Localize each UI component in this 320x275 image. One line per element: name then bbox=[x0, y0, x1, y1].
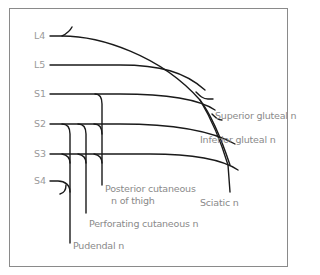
s3-branch-3 bbox=[94, 154, 102, 163]
label-posterior-cutaneous-1: Posterior cutaneous bbox=[105, 183, 196, 194]
s2-branch-3 bbox=[94, 124, 102, 134]
root-label-s1: S1 bbox=[34, 88, 46, 99]
l4-line bbox=[50, 36, 230, 165]
l4-branch-tick bbox=[62, 27, 72, 36]
label-superior-gluteal: Superior gluteal n bbox=[215, 110, 296, 121]
root-label-s3: S3 bbox=[34, 148, 46, 159]
label-inferior-gluteal: Inferior gluteal n bbox=[200, 134, 275, 145]
label-perforating-cutaneous: Perforating cutaneous n bbox=[89, 218, 198, 229]
l5-line bbox=[50, 65, 205, 90]
s3-branch-2 bbox=[78, 154, 86, 163]
root-label-s2: S2 bbox=[34, 118, 46, 129]
s4-line bbox=[50, 181, 70, 192]
root-label-l5: L5 bbox=[34, 59, 45, 70]
s4-curl bbox=[60, 185, 66, 194]
label-sciatic: Sciatic n bbox=[200, 197, 239, 208]
s1-posterior-cutaneous-branch bbox=[95, 94, 102, 185]
root-label-s4: S4 bbox=[34, 175, 46, 186]
label-pudendal: Pudendal n bbox=[73, 240, 124, 251]
s3-line bbox=[50, 154, 238, 170]
label-posterior-cutaneous-2: n of thigh bbox=[111, 195, 155, 206]
s2-branch-2 bbox=[78, 124, 86, 213]
s3-branch-1 bbox=[62, 154, 70, 163]
root-label-l4: L4 bbox=[34, 30, 45, 41]
s1-line bbox=[50, 94, 215, 110]
